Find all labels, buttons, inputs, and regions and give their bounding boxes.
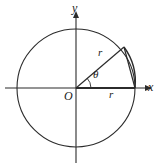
x-axis-label: x <box>148 81 153 93</box>
diagram-svg <box>0 0 159 166</box>
radius-hypotenuse-label: r <box>98 47 102 58</box>
figure-canvas: y x O θ r r <box>0 0 159 166</box>
radius-base-label: r <box>109 89 113 100</box>
y-axis-label: y <box>72 2 77 14</box>
origin-label: O <box>64 90 73 102</box>
angle-theta-label: θ <box>93 69 98 80</box>
angle-arc-marker <box>87 78 91 88</box>
